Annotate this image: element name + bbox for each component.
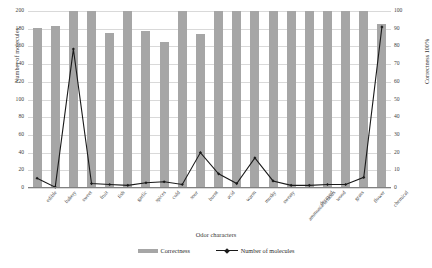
- x-tick-label: wood: [335, 190, 347, 203]
- y-tick-left: 140: [2, 61, 24, 67]
- x-tick-label: fish: [116, 190, 125, 200]
- y-tick-right: 60: [394, 79, 416, 85]
- x-axis-tick-labels: ediblebakerysweetfruitfishgarlicspicesco…: [28, 190, 391, 234]
- y-tick-left: 60: [2, 132, 24, 138]
- legend-item-correctness: Correctness: [138, 247, 190, 254]
- y-tick-left: 180: [2, 26, 24, 32]
- x-tick-label: chemical: [392, 190, 409, 208]
- line-path: [37, 27, 382, 187]
- y-tick-right: 90: [394, 26, 416, 32]
- x-tick-label: warm: [245, 190, 257, 203]
- chart-legend: Correctness Number of molecules: [0, 247, 432, 254]
- y-tick-left: 200: [2, 8, 24, 14]
- line-series: [28, 11, 391, 188]
- x-tick-label: musky: [264, 190, 278, 204]
- x-tick-label: sweet: [81, 190, 93, 203]
- line-marker: [144, 181, 147, 184]
- y-tick-left: 0: [2, 185, 24, 191]
- y-tick-left: 160: [2, 43, 24, 49]
- y-tick-right: 70: [394, 61, 416, 67]
- line-marker: [380, 25, 383, 28]
- x-tick-label: acid: [226, 190, 236, 200]
- x-tick-label: flower: [372, 190, 385, 204]
- x-axis-line: [28, 187, 391, 188]
- y-tick-left: 80: [2, 114, 24, 120]
- y-tick-right: 100: [394, 8, 416, 14]
- x-tick-label: burnt: [208, 190, 220, 202]
- y-tick-right: 30: [394, 132, 416, 138]
- y-tick-left: 40: [2, 150, 24, 156]
- legend-line-swatch-icon: [216, 248, 238, 253]
- x-tick-label: bakery: [64, 190, 78, 205]
- y-tick-right: 20: [394, 150, 416, 156]
- y-tick-right: 10: [394, 167, 416, 173]
- y-tick-left: 20: [2, 167, 24, 173]
- y-tick-right: 80: [394, 43, 416, 49]
- plot-area: [28, 11, 391, 188]
- line-marker: [326, 183, 329, 186]
- x-tick-label: sweaty: [282, 190, 296, 205]
- chart-container: Number of molecules Correctness 100% Odo…: [0, 0, 432, 268]
- line-marker: [72, 47, 75, 50]
- x-tick-label: garlic: [136, 190, 148, 203]
- x-tick-label: edible: [45, 190, 58, 203]
- legend-label-number-of-molecules: Number of molecules: [241, 247, 295, 254]
- y-tick-right: 50: [394, 97, 416, 103]
- y-axis-label-right: Correctness 100%: [423, 2, 430, 122]
- legend-item-number-of-molecules: Number of molecules: [216, 247, 295, 254]
- legend-label-correctness: Correctness: [161, 247, 190, 254]
- x-tick-label: fruit: [99, 190, 109, 201]
- line-marker: [362, 176, 365, 179]
- y-tick-left: 100: [2, 97, 24, 103]
- line-marker: [344, 183, 347, 186]
- y-tick-right: 40: [394, 114, 416, 120]
- gridline: [28, 188, 391, 189]
- line-markers: [36, 25, 384, 188]
- line-marker: [108, 183, 111, 186]
- y-tick-left: 120: [2, 79, 24, 85]
- line-marker: [90, 182, 93, 185]
- line-marker: [163, 180, 166, 183]
- x-tick-label: spices: [154, 190, 167, 203]
- x-tick-label: grass: [353, 190, 364, 202]
- x-tick-label: cold: [171, 190, 181, 201]
- x-tick-label: sour: [189, 190, 199, 201]
- legend-bar-swatch-icon: [138, 249, 158, 253]
